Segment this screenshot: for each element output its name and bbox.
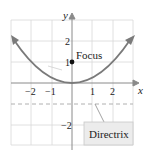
focus-leader-line (48, 66, 62, 70)
focus-point (70, 60, 75, 65)
x-axis-label: x (137, 84, 143, 96)
tick-x-neg1: −1 (45, 86, 56, 97)
left-arrowhead-icon (11, 35, 19, 45)
parabola-chart: y x −2 −1 1 2 2 1 −2 Focus Directrix (0, 0, 148, 154)
y-axis-label: y (62, 9, 68, 21)
tick-y-neg2: −2 (61, 120, 72, 131)
tick-y-2: 2 (65, 36, 70, 47)
tick-x-1: 1 (90, 86, 95, 97)
directrix-label: Directrix (89, 128, 129, 140)
tick-x-neg2: −2 (25, 86, 36, 97)
tick-x-2: 2 (110, 86, 115, 97)
focus-label: Focus (76, 49, 102, 61)
tick-y-1: 1 (65, 57, 70, 68)
directrix-leader-line (95, 104, 104, 122)
